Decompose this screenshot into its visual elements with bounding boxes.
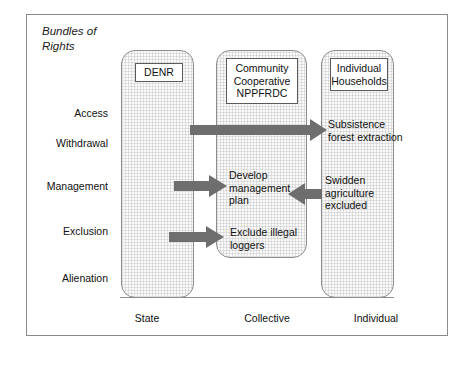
coop-line-1: Community — [235, 62, 288, 74]
row-label-exclusion: Exclusion — [0, 225, 108, 237]
annotation-develop-management-plan: Develop management plan — [229, 169, 311, 207]
actor-label-denr: DENR — [144, 66, 174, 79]
actor-box-community-cooperative: Community Cooperative NPPFRDC — [226, 58, 298, 104]
households-line-2: Households — [331, 75, 386, 87]
actor-label-community-cooperative: Community Cooperative NPPFRDC — [234, 62, 291, 100]
figure-title-line-1: Bundles of — [42, 24, 152, 39]
actor-box-denr: DENR — [135, 63, 183, 82]
row-label-management: Management — [0, 180, 108, 192]
axis-label-state: State — [102, 312, 192, 324]
domain-column-state — [121, 50, 194, 298]
axis-label-collective: Collective — [222, 312, 312, 324]
row-label-alienation: Alienation — [0, 272, 108, 284]
coop-line-2: Cooperative — [234, 75, 291, 87]
annotation-swidden-agriculture-excluded: Swidden agriculture excluded — [325, 174, 417, 212]
households-line-1: Individual — [337, 62, 381, 74]
row-label-withdrawal: Withdrawal — [0, 137, 108, 149]
actor-label-individual-households: Individual Households — [331, 62, 386, 87]
row-label-access: Access — [0, 107, 108, 119]
actor-box-individual-households: Individual Households — [330, 58, 388, 91]
figure-canvas: Bundles of Rights DENR Community Coopera… — [0, 0, 476, 366]
axis-label-individual: Individual — [331, 312, 421, 324]
annotation-subsistence-forest-extraction: Subsistence forest extraction — [328, 118, 414, 143]
coop-line-3: NPPFRDC — [237, 87, 288, 99]
annotation-exclude-illegal-loggers: Exclude illegal loggers — [230, 226, 308, 251]
baseline-axis — [120, 297, 394, 298]
